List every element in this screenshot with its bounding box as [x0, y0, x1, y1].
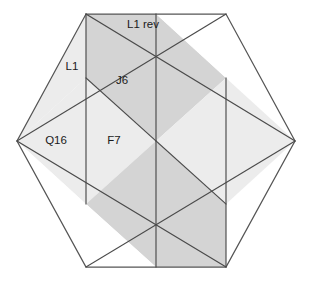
label-q16: Q16 — [45, 134, 67, 146]
label-l1: L1 — [66, 60, 79, 72]
label-f7: F7 — [107, 134, 120, 146]
label-j6: J6 — [116, 74, 128, 86]
label-l1-rev: L1 rev — [127, 18, 159, 30]
diagram-container: L1 rev L1 J6 Q16 F7 — [0, 0, 311, 282]
hexagon-tiling-diagram: L1 rev L1 J6 Q16 F7 — [0, 0, 311, 282]
